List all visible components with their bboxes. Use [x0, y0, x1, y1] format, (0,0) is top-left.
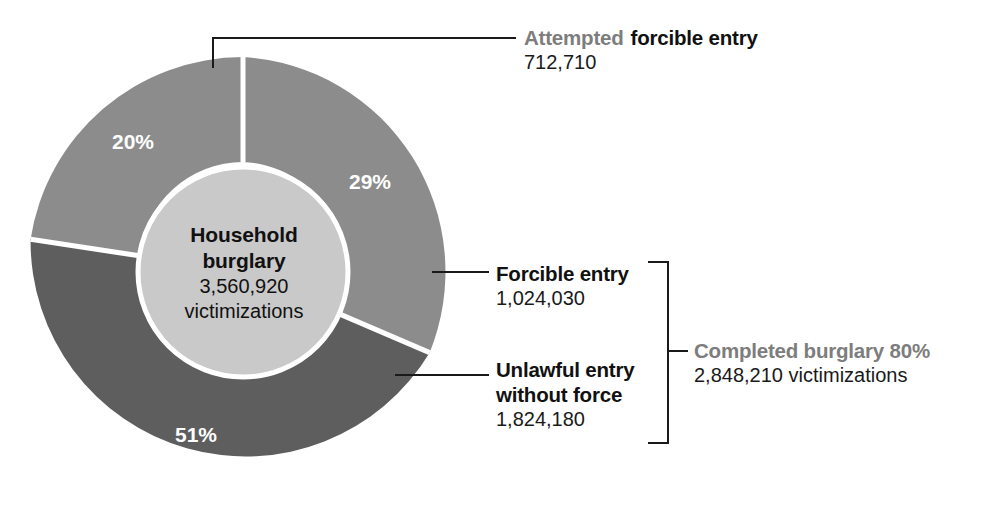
callout-forcible-label: Forcible entry [496, 261, 629, 286]
donut-center-label: Household burglary 3,560,920 victimizati… [138, 222, 350, 324]
callout-attempted-label-gray: Attempted [524, 26, 624, 49]
slice-label-unlawful-percent: 51% [175, 423, 217, 446]
callout-attempted-label-bold: forcible entry [631, 26, 758, 49]
callout-forcible-entry: Forcible entry 1,024,030 [496, 261, 629, 310]
callout-attempted-title: Attemptedforcible entry [524, 25, 758, 50]
callout-unlawful-label-line2: without force [496, 382, 634, 407]
center-value: 3,560,920 [138, 274, 350, 299]
callout-completed-label: Completed burglary 80% [694, 338, 930, 363]
completed-burglary-bracket [648, 262, 688, 443]
center-unit: victimizations [138, 299, 350, 324]
callout-completed-value: 2,848,210 victimizations [694, 363, 930, 387]
callout-forcible-value: 1,024,030 [496, 286, 629, 310]
slice-label-attempted-percent: 20% [112, 130, 154, 153]
callout-completed-burglary: Completed burglary 80% 2,848,210 victimi… [694, 338, 930, 387]
donut-chart-figure: 20% 29% 51% Household burglary 3,560,920… [0, 0, 1001, 507]
callout-unlawful-entry: Unlawful entry without force 1,824,180 [496, 357, 634, 431]
callout-attempted-value: 712,710 [524, 50, 758, 74]
slice-label-forcible-percent: 29% [349, 170, 391, 193]
callout-unlawful-value: 1,824,180 [496, 407, 634, 431]
center-title-line1: Household [138, 222, 350, 248]
callout-unlawful-label-line1: Unlawful entry [496, 357, 634, 382]
center-title-line2: burglary [138, 248, 350, 274]
callout-attempted-forcible-entry: Attemptedforcible entry 712,710 [524, 25, 758, 74]
